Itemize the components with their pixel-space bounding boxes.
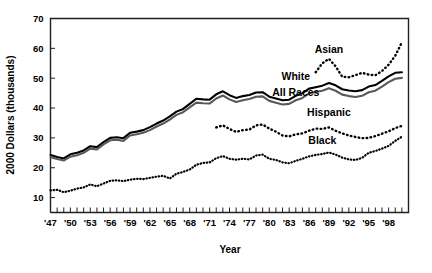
- series-label-white: White: [282, 70, 311, 82]
- x-tick-label: '77: [243, 217, 256, 228]
- x-tick-label: '68: [183, 217, 196, 228]
- y-tick-label: 30: [33, 132, 44, 143]
- y-tick-label: 10: [33, 192, 44, 203]
- y-tick-label: 50: [33, 73, 44, 84]
- x-axis-tick-labels: '47'50'53'56'59'62'65'68'71'74'77'80'83'…: [44, 217, 395, 228]
- x-tick-label: '71: [203, 217, 217, 228]
- x-tick-label: '47: [44, 217, 57, 228]
- x-axis-title: Year: [219, 244, 240, 255]
- x-tick-label: '59: [124, 217, 137, 228]
- x-tick-label: '83: [283, 217, 296, 228]
- y-tick-label: 60: [33, 43, 44, 54]
- x-axis-ticks: [51, 208, 409, 213]
- x-tick-label: '56: [104, 217, 117, 228]
- y-tick-label: 40: [33, 102, 44, 113]
- y-axis-title: 2000 Dollars (thousands): [5, 56, 16, 175]
- series-label-asian: Asian: [315, 43, 344, 55]
- x-tick-label: '50: [64, 217, 77, 228]
- x-tick-label: '62: [144, 217, 157, 228]
- x-tick-label: '98: [382, 217, 395, 228]
- series-label-black: Black: [308, 134, 336, 146]
- x-tick-label: '53: [84, 217, 97, 228]
- x-tick-label: '80: [263, 217, 276, 228]
- x-tick-label: '95: [362, 217, 376, 228]
- y-tick-label: 20: [33, 162, 44, 173]
- chart-canvas: 10203040506070 '47'50'53'56'59'62'65'68'…: [0, 0, 432, 273]
- x-tick-label: '89: [323, 217, 336, 228]
- series-label-hispanic: Hispanic: [307, 106, 351, 118]
- x-tick-label: '65: [163, 217, 177, 228]
- series-label-all-races: All Races: [272, 86, 319, 98]
- y-axis-tick-labels: 10203040506070: [33, 13, 44, 203]
- x-tick-label: '86: [303, 217, 316, 228]
- x-tick-label: '92: [342, 217, 355, 228]
- median-income-line-chart: 10203040506070 '47'50'53'56'59'62'65'68'…: [0, 0, 432, 273]
- y-tick-label: 70: [33, 13, 44, 24]
- series-inline-labels: WhiteAll RacesAsianHispanicBlack: [272, 43, 351, 146]
- x-tick-label: '74: [223, 217, 237, 228]
